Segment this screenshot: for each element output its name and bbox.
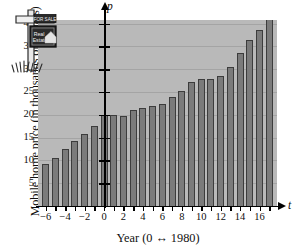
bar	[227, 67, 234, 206]
y-tick-mark	[99, 46, 110, 47]
bar	[188, 82, 195, 206]
bar	[246, 40, 253, 206]
bar	[198, 79, 205, 206]
sign-top-text: FOR SALE	[34, 17, 57, 22]
y-axis-line	[104, 8, 106, 208]
x-axis-variable-label: t	[288, 199, 291, 211]
bar	[91, 126, 98, 206]
y-axis-variable-label: p	[107, 0, 113, 12]
bar	[81, 134, 88, 206]
sign-text-line1: Real	[34, 31, 45, 37]
bar	[159, 104, 166, 206]
bar	[42, 164, 49, 206]
y-tick-mark	[99, 138, 110, 139]
plot-area	[38, 20, 277, 206]
gridline	[38, 46, 277, 47]
y-tick-mark	[99, 24, 110, 25]
bar	[52, 158, 59, 206]
y-tick-mark	[99, 183, 110, 184]
real-estate-sign-icon: FOR SALE Real Estate	[8, 4, 62, 78]
y-tick-label: 10	[12, 154, 34, 165]
bar	[71, 141, 78, 206]
bar	[130, 110, 137, 206]
gridline	[38, 24, 277, 25]
x-axis-line	[36, 206, 279, 208]
bar	[169, 97, 176, 206]
y-tick-mark	[99, 160, 110, 161]
y-tick-label: 25	[12, 85, 34, 96]
bar	[120, 116, 127, 206]
y-tick-label: 20	[12, 108, 34, 119]
y-tick-mark	[99, 92, 110, 93]
bar	[62, 149, 69, 206]
bar	[110, 115, 117, 206]
bar	[139, 108, 146, 206]
y-tick-mark	[99, 69, 110, 70]
x-axis-title: Year (0 ↔ 1980)	[38, 231, 278, 246]
bar	[217, 76, 224, 206]
bar	[256, 30, 263, 206]
chart-figure: Mobile home price (in thousands of dolla…	[0, 0, 299, 250]
y-tick-label: 15	[12, 131, 34, 142]
bar	[207, 79, 214, 206]
bar	[237, 53, 244, 206]
x-axis-arrowhead	[278, 202, 286, 210]
y-tick-mark	[99, 115, 110, 116]
y-tick-label: 5	[12, 177, 34, 188]
bar	[266, 20, 273, 206]
bar	[178, 91, 185, 206]
bar	[149, 106, 156, 206]
x-tick-label: 16	[248, 211, 272, 222]
